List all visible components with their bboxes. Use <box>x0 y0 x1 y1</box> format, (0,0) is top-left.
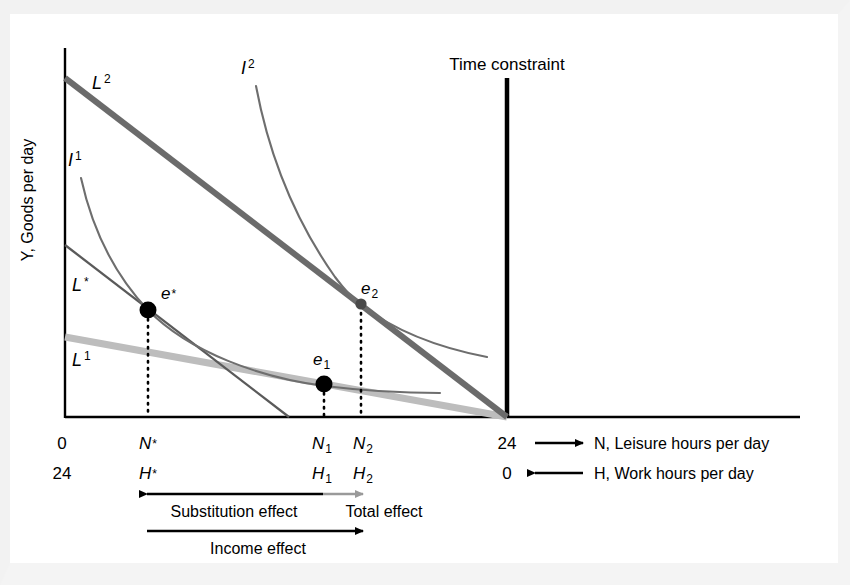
tick-n-star: N* <box>139 434 157 453</box>
tick-n-star-base: N <box>139 434 152 453</box>
budget-line-2-path <box>65 78 507 417</box>
tick-h-two: H2 <box>353 464 373 486</box>
tick-h-star-base: H <box>139 464 152 483</box>
tick-h-one-sub: 1 <box>325 472 332 486</box>
label-I1-base: I <box>68 150 73 170</box>
label-budget-line-2: L2 <box>92 72 111 93</box>
label-e-one: e1 <box>313 350 330 372</box>
tick-h-one: H1 <box>312 464 332 486</box>
budget-line-star-path <box>65 245 289 417</box>
label-e-two-base: e <box>361 279 370 298</box>
tick-n-one: N1 <box>312 434 332 456</box>
tick-n-two-sub: 2 <box>366 442 373 456</box>
label-I2-sup: 2 <box>248 57 255 71</box>
label-e-star: e* <box>161 284 176 303</box>
point-e-star <box>140 302 157 319</box>
leisure-axis-annotation: N, Leisure hours per day <box>535 435 769 452</box>
substitution-effect-label: Substitution effect <box>171 503 298 520</box>
tick-origin-work: 0 <box>502 464 511 483</box>
time-constraint-group: Time constraint <box>449 55 565 417</box>
label-budget-line-star: L* <box>72 275 89 295</box>
label-indifference-curve-1: I1 <box>68 149 82 170</box>
indifference-curves <box>81 86 487 393</box>
tick-origin-leisure: 0 <box>57 434 66 453</box>
tick-h-two-sub: 2 <box>366 472 373 486</box>
tick-n-one-sub: 1 <box>325 442 332 456</box>
tick-n-star-sub: * <box>152 437 157 451</box>
budget-line-1-path <box>65 337 507 417</box>
labor-leisure-diagram: Time constraint <box>0 0 850 585</box>
label-L1-sup: 1 <box>84 349 91 363</box>
tick-h-star-sub: * <box>152 467 157 481</box>
label-budget-line-1: L1 <box>72 349 91 370</box>
label-Lstar-base: L <box>72 275 82 295</box>
label-e-star-base: e <box>161 284 170 303</box>
label-L1-base: L <box>72 350 82 370</box>
label-Lstar-sup: * <box>84 275 89 289</box>
work-axis-label: H, Work hours per day <box>594 465 754 482</box>
leisure-axis-label: N, Leisure hours per day <box>594 435 769 452</box>
work-axis-annotation: H, Work hours per day <box>535 465 754 482</box>
tick-h-two-base: H <box>353 464 366 483</box>
label-I1-sup: 1 <box>75 149 82 163</box>
point-e-two <box>355 298 366 309</box>
label-e-star-sup: * <box>171 287 176 301</box>
label-e-one-sub: 1 <box>323 358 330 372</box>
label-I2-base: I <box>241 58 246 78</box>
income-effect-label: Income effect <box>210 540 306 557</box>
leisure-tick-labels: 0 N* N1 N2 24 <box>57 434 516 456</box>
time-constraint-label: Time constraint <box>449 55 565 74</box>
total-effect-label: Total effect <box>345 503 423 520</box>
tick-n-two-base: N <box>353 434 366 453</box>
equilibrium-points <box>140 298 367 392</box>
tick-h-one-base: H <box>312 464 325 483</box>
budget-lines <box>65 78 507 417</box>
label-L2-base: L <box>92 73 102 93</box>
figure-page: Time constraint <box>0 0 850 585</box>
tick-work-max: 24 <box>53 464 72 483</box>
label-e-two-sub: 2 <box>371 287 378 301</box>
tick-n-two: N2 <box>353 434 373 456</box>
label-indifference-curve-2: I2 <box>241 57 255 78</box>
indifference-curve-1-path <box>81 178 440 393</box>
point-e-one <box>316 376 333 393</box>
label-e-one-base: e <box>313 350 322 369</box>
tick-n-one-base: N <box>312 434 325 453</box>
label-e-two: e2 <box>361 279 378 301</box>
tick-leisure-max: 24 <box>498 434 517 453</box>
y-axis-title: Y, Goods per day <box>19 139 36 261</box>
label-L2-sup: 2 <box>104 72 111 86</box>
work-tick-labels: 24 H* H1 H2 0 <box>53 464 512 486</box>
tick-h-star: H* <box>139 464 157 483</box>
